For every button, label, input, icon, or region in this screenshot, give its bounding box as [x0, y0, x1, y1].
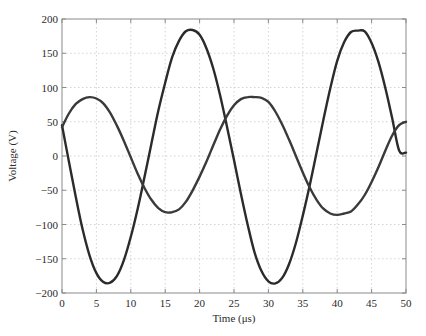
x-tick-label: 35 — [297, 297, 309, 309]
x-tick-label: 30 — [263, 297, 275, 309]
x-tick-label: 5 — [94, 297, 100, 309]
x-tick-label: 45 — [366, 297, 378, 309]
y-tick-label: 0 — [53, 150, 59, 162]
x-tick-label: 20 — [194, 297, 206, 309]
x-tick-label: 0 — [59, 297, 65, 309]
x-tick-label: 15 — [160, 297, 172, 309]
y-tick-label: 100 — [42, 82, 59, 94]
voltage-time-chart: 05101520253035404550 200150100500−50−100… — [0, 0, 426, 336]
y-axis-label: Voltage (V) — [6, 130, 19, 182]
y-tick-label: 200 — [42, 13, 59, 25]
y-tick-label: −50 — [41, 184, 59, 196]
x-tick-label: 50 — [401, 297, 413, 309]
y-tick-label: 50 — [47, 116, 59, 128]
x-tick-label: 40 — [332, 297, 344, 309]
y-tick-label: 150 — [42, 47, 59, 59]
y-axis-tick-labels: 200150100500−50−100−150−200 — [35, 13, 58, 299]
y-tick-label: −150 — [35, 253, 58, 265]
x-tick-label: 10 — [125, 297, 137, 309]
x-axis-tick-labels: 05101520253035404550 — [59, 297, 412, 309]
y-tick-label: −100 — [35, 219, 58, 231]
x-axis-label: Time (μs) — [212, 312, 255, 325]
x-tick-label: 25 — [229, 297, 241, 309]
y-tick-label: −200 — [35, 287, 58, 299]
